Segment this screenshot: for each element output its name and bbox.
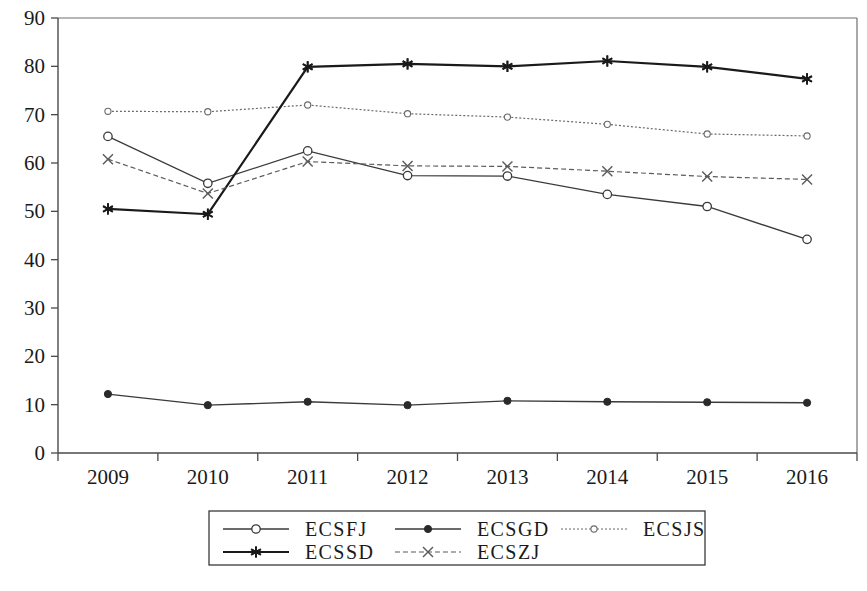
data-point-marker [204, 179, 212, 187]
x-tick-label: 2012 [387, 465, 429, 489]
x-tick-label: 2015 [686, 465, 728, 489]
legend-label: ECSSD [305, 541, 374, 563]
chart-legend: ECSFJECSGDECSJSECSSDECSZJ [209, 511, 706, 565]
y-axis-ticks [51, 18, 58, 453]
y-tick-label: 40 [24, 248, 45, 272]
y-tick-label: 50 [24, 199, 45, 223]
series-ecsjs [105, 102, 810, 139]
data-point-marker [303, 157, 313, 167]
data-point-marker [502, 161, 512, 171]
data-point-marker [104, 132, 112, 140]
chart-container: 0102030405060708090 20092010201120122013… [0, 0, 867, 591]
data-point-marker [702, 172, 712, 182]
legend-box [209, 511, 705, 565]
x-tick-label: 2016 [786, 465, 828, 489]
y-axis-tick-labels: 0102030405060708090 [24, 6, 45, 465]
data-point-marker [204, 402, 211, 409]
data-point-marker [305, 102, 311, 108]
y-tick-label: 80 [24, 54, 45, 78]
data-point-marker [404, 111, 410, 117]
y-tick-label: 90 [24, 6, 45, 30]
data-point-marker [504, 397, 511, 404]
data-point-marker [404, 402, 411, 409]
data-point-marker [504, 114, 510, 120]
data-point-marker [403, 171, 411, 179]
data-point-marker [803, 235, 811, 243]
x-tick-label: 2013 [486, 465, 528, 489]
data-point-marker [303, 147, 311, 155]
x-tick-label: 2011 [287, 465, 328, 489]
legend-label: ECSFJ [305, 518, 368, 540]
data-point-marker [424, 525, 431, 532]
series-layer [103, 55, 812, 408]
x-tick-label: 2014 [586, 465, 629, 489]
data-point-marker [803, 399, 810, 406]
data-point-marker [252, 525, 260, 533]
data-point-marker [604, 398, 611, 405]
data-point-marker [103, 154, 113, 164]
y-tick-label: 0 [35, 441, 46, 465]
x-axis-ticks [58, 453, 857, 461]
data-point-marker [804, 133, 810, 139]
y-tick-label: 30 [24, 296, 45, 320]
data-point-marker [205, 109, 211, 115]
data-point-marker [604, 121, 610, 127]
data-point-marker [703, 202, 711, 210]
data-point-marker [304, 398, 311, 405]
series-ecsgd [104, 390, 810, 408]
y-tick-label: 70 [24, 103, 45, 127]
x-tick-label: 2010 [187, 465, 229, 489]
series-ecsfj [104, 132, 812, 243]
data-point-marker [503, 172, 511, 180]
data-point-marker [591, 526, 597, 532]
data-point-marker [104, 390, 111, 397]
y-tick-label: 60 [24, 151, 45, 175]
y-tick-label: 10 [24, 393, 45, 417]
legend-label: ECSJS [643, 518, 706, 540]
data-point-marker [704, 399, 711, 406]
data-point-marker [603, 190, 611, 198]
data-point-marker [203, 188, 213, 198]
data-point-marker [704, 131, 710, 137]
legend-label: ECSZJ [477, 541, 541, 563]
legend-label: ECSGD [477, 518, 550, 540]
data-point-marker [105, 108, 111, 114]
x-axis-tick-labels: 20092010201120122013201420152016 [87, 465, 828, 489]
line-chart: 0102030405060708090 20092010201120122013… [0, 0, 867, 591]
y-tick-label: 20 [24, 344, 45, 368]
plot-frame [58, 18, 857, 453]
x-tick-label: 2009 [87, 465, 129, 489]
